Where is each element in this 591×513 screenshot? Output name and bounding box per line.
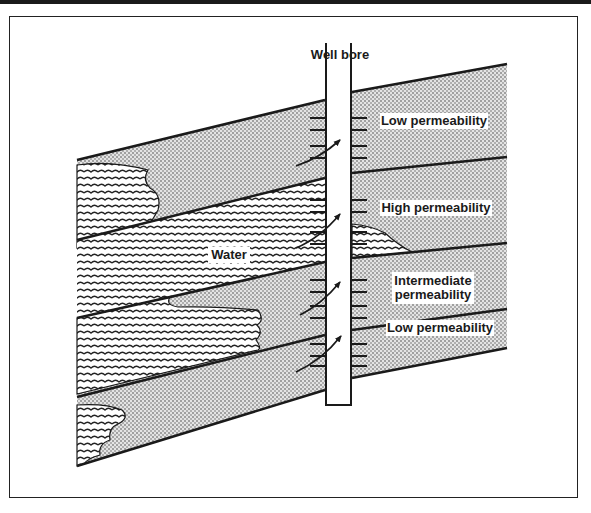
well-bore-label: Well bore — [311, 47, 369, 62]
layer-3-permeability-label-line2: permeability — [395, 287, 472, 302]
layer-3-permeability-label-line1: Intermediate — [394, 273, 471, 288]
layer-1-permeability-label: Low permeability — [381, 113, 488, 128]
layer-4-permeability-label: Low permeability — [387, 320, 494, 335]
water-label: Water — [211, 247, 247, 262]
water-flooding-diagram: Well bore Water Low permeability High pe… — [0, 0, 591, 513]
layer-2-permeability-label: High permeability — [381, 200, 491, 215]
well-bore — [325, 43, 352, 405]
